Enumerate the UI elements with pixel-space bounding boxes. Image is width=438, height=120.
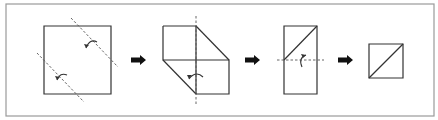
origami-diagram <box>0 0 438 120</box>
